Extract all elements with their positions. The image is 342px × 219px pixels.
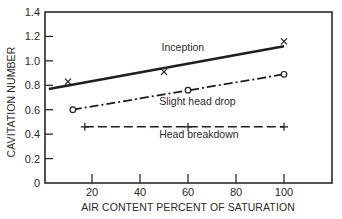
series-label: Slight head drop	[159, 95, 236, 107]
y-tick-label: 0.2	[25, 153, 40, 165]
x-tick-label: 60	[182, 186, 194, 198]
cavitation-chart: 00.20.40.60.81.01.21.4 20406080100 Incep…	[0, 0, 342, 219]
plus-marker-icon	[280, 123, 288, 131]
y-tick-label: 1.4	[25, 6, 40, 18]
circle-marker-icon	[70, 107, 76, 113]
y-tick-label: 0.6	[25, 104, 40, 116]
circle-marker-icon	[185, 87, 191, 93]
series-inception: Inception	[49, 38, 287, 89]
y-tick-label: 0.8	[25, 79, 40, 91]
x-axis-ticks: 20406080100	[86, 174, 293, 198]
y-tick-label: 1.0	[25, 55, 40, 67]
x-tick-label: 20	[86, 186, 98, 198]
series-slight-head-drop: Slight head drop	[70, 71, 287, 112]
x-marker-icon	[281, 38, 287, 44]
series-layer: InceptionSlight head dropHead breakdown	[49, 38, 288, 139]
x-axis-label: AIR CONTENT PERCENT OF SATURATION	[81, 201, 295, 213]
y-axis-ticks: 00.20.40.60.81.01.21.4	[25, 6, 53, 189]
y-tick-label: 1.2	[25, 30, 40, 42]
series-label: Inception	[162, 41, 205, 53]
x-tick-label: 40	[134, 186, 146, 198]
series-label: Head breakdown	[159, 128, 239, 140]
x-tick-label: 100	[275, 186, 293, 198]
series-head-breakdown: Head breakdown	[81, 123, 288, 140]
y-axis-label: CAVITATION NUMBER	[5, 46, 17, 157]
plus-marker-icon	[81, 123, 89, 131]
x-marker-icon	[65, 79, 71, 85]
circle-marker-icon	[281, 71, 287, 77]
y-tick-label: 0	[34, 177, 40, 189]
x-marker-icon	[161, 69, 167, 75]
x-tick-label: 80	[230, 186, 242, 198]
y-tick-label: 0.4	[25, 128, 40, 140]
